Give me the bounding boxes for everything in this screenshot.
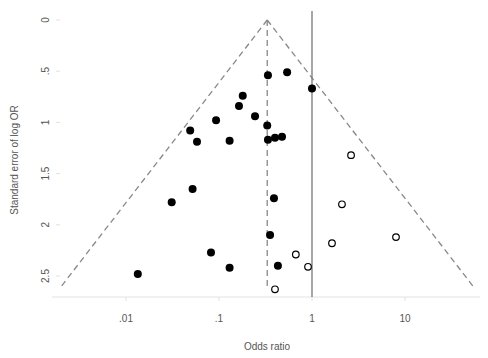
axes: .01.11100.511.522.5 <box>40 17 480 324</box>
imputed-study-marker <box>293 251 300 258</box>
imputed-study-marker <box>339 201 346 208</box>
imputed-study-marker <box>393 234 400 241</box>
y-tick-label: .5 <box>40 67 51 76</box>
funnel-lines <box>60 11 475 297</box>
observed-study-marker <box>274 262 282 270</box>
observed-study-marker <box>207 248 215 256</box>
y-tick-label: 0 <box>40 17 51 23</box>
x-tick-label: 10 <box>399 313 411 324</box>
observed-study-marker <box>189 185 197 193</box>
observed-study-marker <box>186 127 194 135</box>
funnel-plot: .01.11100.511.522.5 Odds ratio Standard … <box>0 0 488 358</box>
y-axis-title: Standard error of log OR <box>9 105 20 215</box>
observed-study-marker <box>264 71 272 79</box>
imputed-study-marker <box>348 152 355 159</box>
observed-study-marker <box>264 136 272 144</box>
observed-study-marker <box>271 134 279 142</box>
observed-study-marker <box>251 112 259 120</box>
observed-study-marker <box>235 102 243 110</box>
observed-study-marker <box>168 198 176 206</box>
observed-study-marker <box>308 85 316 93</box>
data-points <box>134 68 399 292</box>
funnel-right-boundary <box>267 20 474 288</box>
x-tick-label: .01 <box>119 313 133 324</box>
observed-study-marker <box>212 116 220 124</box>
observed-study-marker <box>226 264 234 272</box>
observed-study-marker <box>193 138 201 146</box>
x-tick-label: 1 <box>309 313 315 324</box>
y-tick-label: 2 <box>40 222 51 228</box>
observed-study-marker <box>239 92 247 100</box>
observed-study-marker <box>263 121 271 129</box>
observed-study-marker <box>278 133 286 141</box>
funnel-left-boundary <box>60 20 267 288</box>
x-axis-title: Odds ratio <box>244 341 291 352</box>
imputed-study-marker <box>272 286 279 293</box>
x-tick-label: .1 <box>215 313 224 324</box>
y-tick-label: 1.5 <box>40 166 51 180</box>
y-tick-label: 1 <box>40 119 51 125</box>
observed-study-marker <box>226 137 234 145</box>
y-tick-label: 2.5 <box>40 269 51 283</box>
imputed-study-marker <box>329 240 336 247</box>
observed-study-marker <box>283 68 291 76</box>
observed-study-marker <box>266 231 274 239</box>
imputed-study-marker <box>305 263 312 270</box>
observed-study-marker <box>270 194 278 202</box>
observed-study-marker <box>134 270 142 278</box>
